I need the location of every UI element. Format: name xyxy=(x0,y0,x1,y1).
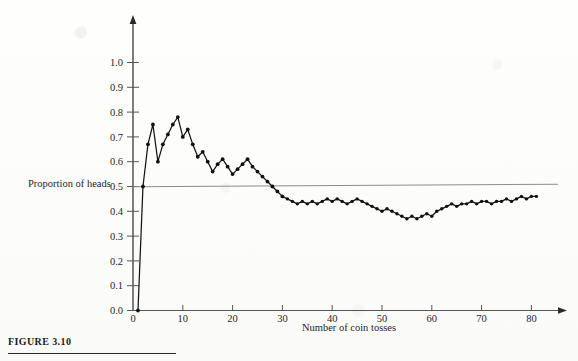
data-point xyxy=(415,217,418,220)
data-point xyxy=(286,197,289,200)
data-point xyxy=(206,160,210,164)
data-point xyxy=(171,123,175,127)
data-point xyxy=(191,142,195,146)
data-point xyxy=(196,155,200,159)
figure-caption: FIGURE 3.10 xyxy=(8,336,71,347)
data-point xyxy=(510,200,513,203)
y-tick-label: 0.1 xyxy=(110,280,123,291)
data-point xyxy=(156,160,160,164)
data-point xyxy=(385,207,388,210)
data-point xyxy=(475,202,478,205)
data-point xyxy=(296,202,299,205)
data-point xyxy=(470,200,473,203)
data-point xyxy=(530,195,533,198)
caption-divider xyxy=(8,353,176,354)
data-point xyxy=(326,197,329,200)
data-point xyxy=(331,200,334,203)
data-point xyxy=(266,180,270,184)
x-tick-label: 80 xyxy=(526,313,537,324)
data-point xyxy=(515,197,518,200)
data-point xyxy=(301,200,304,203)
y-tick-label: 0.4 xyxy=(110,206,124,217)
data-point xyxy=(221,157,225,161)
data-point xyxy=(176,115,180,119)
figure-page: 0.00.10.20.30.40.50.60.70.80.91.0 010203… xyxy=(0,0,578,361)
data-point xyxy=(231,172,235,176)
x-tick-label: 70 xyxy=(476,313,487,324)
data-point xyxy=(291,200,294,203)
data-point xyxy=(316,202,319,205)
x-tick-label: 0 xyxy=(130,313,135,324)
data-point xyxy=(410,215,413,218)
data-point xyxy=(430,215,433,218)
data-point xyxy=(465,202,468,205)
data-point xyxy=(236,167,240,171)
x-tick-label: 60 xyxy=(427,313,438,324)
x-axis xyxy=(133,307,567,314)
data-point xyxy=(306,202,309,205)
data-point xyxy=(500,200,503,203)
y-tick-label: 0.0 xyxy=(110,305,123,316)
data-point xyxy=(380,210,383,213)
data-point xyxy=(335,197,338,200)
x-axis-title: Number of coin tosses xyxy=(302,322,396,333)
y-tick-label: 0.6 xyxy=(110,156,123,167)
data-point xyxy=(435,210,438,213)
data-point xyxy=(450,202,453,205)
data-point xyxy=(226,165,230,169)
data-point xyxy=(455,205,458,208)
data-point xyxy=(420,215,423,218)
data-point xyxy=(460,202,463,205)
reference-line-0point5 xyxy=(133,184,558,187)
data-point xyxy=(271,185,275,189)
data-point xyxy=(505,197,508,200)
data-point xyxy=(146,142,150,146)
y-tick-label: 0.3 xyxy=(110,231,123,242)
data-point xyxy=(321,200,324,203)
data-point xyxy=(375,207,378,210)
data-point xyxy=(345,202,348,205)
x-tick-label: 30 xyxy=(277,313,288,324)
data-point xyxy=(186,128,190,132)
data-point xyxy=(490,202,493,205)
y-tick-label: 0.9 xyxy=(110,82,123,93)
data-point xyxy=(246,157,250,161)
data-point xyxy=(370,205,373,208)
y-axis xyxy=(130,15,137,311)
data-point xyxy=(340,200,343,203)
data-point xyxy=(166,133,170,137)
y-axis-tick-labels: 0.00.10.20.30.40.50.60.70.80.91.0 xyxy=(110,57,124,316)
data-point xyxy=(360,200,363,203)
data-point xyxy=(425,212,428,215)
data-point xyxy=(311,200,314,203)
data-point xyxy=(216,162,220,166)
y-tick-label: 1.0 xyxy=(110,57,123,68)
data-point xyxy=(445,205,448,208)
data-series-line xyxy=(138,117,536,310)
data-point xyxy=(281,195,285,199)
y-tick-label: 0.7 xyxy=(110,132,123,143)
data-point xyxy=(181,135,185,139)
x-tick-label: 20 xyxy=(227,313,238,324)
data-series-markers xyxy=(136,115,538,312)
data-point xyxy=(211,170,215,174)
data-point xyxy=(350,200,353,203)
data-point xyxy=(141,185,145,189)
data-point xyxy=(136,309,140,313)
data-point xyxy=(241,162,245,166)
data-point xyxy=(151,123,155,127)
data-point xyxy=(161,142,165,146)
data-point xyxy=(256,170,260,174)
y-tick-label: 0.2 xyxy=(110,256,123,267)
data-point xyxy=(276,190,280,194)
data-point xyxy=(261,175,265,179)
data-point xyxy=(395,212,398,215)
data-point xyxy=(400,215,403,218)
data-point xyxy=(520,195,523,198)
data-point xyxy=(405,217,408,220)
data-point xyxy=(365,202,368,205)
data-point xyxy=(485,200,488,203)
data-point xyxy=(525,197,528,200)
data-point xyxy=(535,195,538,198)
data-point xyxy=(251,165,255,169)
